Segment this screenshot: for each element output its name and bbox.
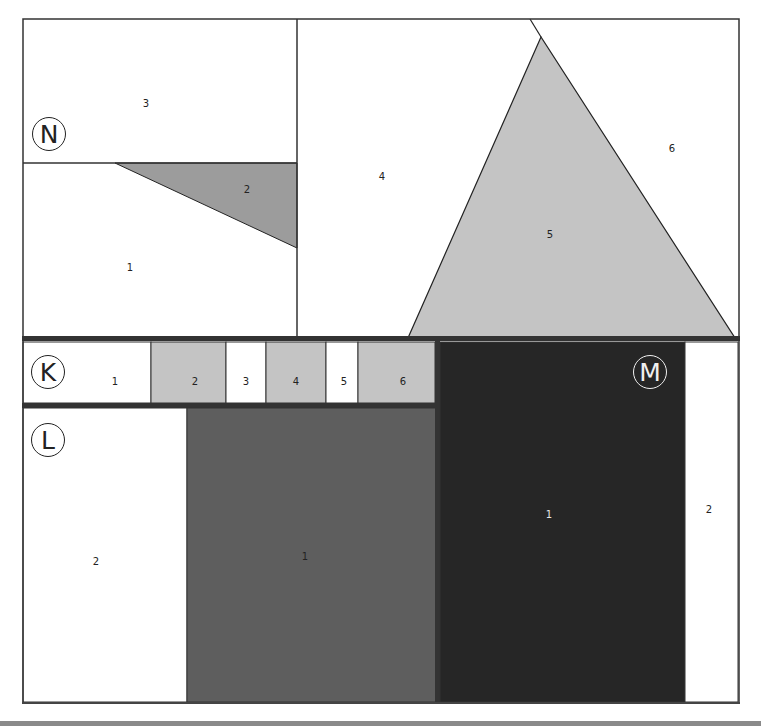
section-m-cell-1	[440, 342, 685, 702]
section-k-cell-6	[358, 342, 435, 403]
section-m-badge-letter: M	[639, 360, 661, 385]
section-n-region-3-label: 3	[143, 98, 149, 109]
section-k-cell-1-label: 1	[112, 376, 118, 387]
section-k-cell-3	[226, 342, 266, 403]
section-k-badge: K	[31, 355, 65, 389]
section-l-badge-letter: L	[41, 428, 55, 453]
section-m-badge: M	[633, 355, 667, 389]
section-n-badge-letter: N	[40, 122, 59, 147]
section-k-cell-2-label: 2	[192, 376, 198, 387]
section-l-cell-1-label: 1	[302, 551, 308, 562]
section-k-cell-5	[326, 342, 358, 403]
section-k-cell-4-label: 4	[293, 376, 299, 387]
section-k-cell-4	[266, 342, 326, 403]
section-m-cell-2	[685, 342, 738, 702]
section-k-cell-6-label: 6	[400, 376, 406, 387]
section-l-badge: L	[31, 423, 65, 457]
section-n-badge: N	[32, 117, 66, 151]
section-m-cell-1-label: 1	[546, 509, 552, 520]
separator-k-l	[22, 403, 438, 408]
section-n-region-2-label: 2	[244, 184, 250, 195]
section-k-cell-5-label: 5	[341, 376, 347, 387]
section-n-region-4-label: 4	[379, 171, 385, 182]
bottom-bar	[0, 721, 761, 726]
separator-kl-m	[435, 340, 440, 704]
section-m-cell-2-label: 2	[706, 504, 712, 515]
section-k-cell-2	[151, 342, 226, 403]
section-n-region-1-label: 1	[127, 262, 133, 273]
section-l-cell-2-label: 2	[93, 556, 99, 567]
section-k-cell-3-label: 3	[243, 376, 249, 387]
section-k-badge-letter: K	[40, 360, 56, 385]
section-l-cell-1	[187, 408, 436, 702]
section-n-region-5-label: 5	[547, 229, 553, 240]
section-n-region-6-label: 6	[669, 143, 675, 154]
